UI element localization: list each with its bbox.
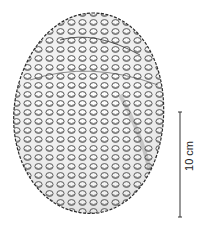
scale-bar — [178, 112, 182, 217]
ovoid-specimen-drawing — [0, 0, 203, 225]
specimen-body — [0, 0, 203, 225]
specimen-illustration — [0, 0, 203, 225]
scale-bar-label: 10 cm — [183, 141, 195, 171]
